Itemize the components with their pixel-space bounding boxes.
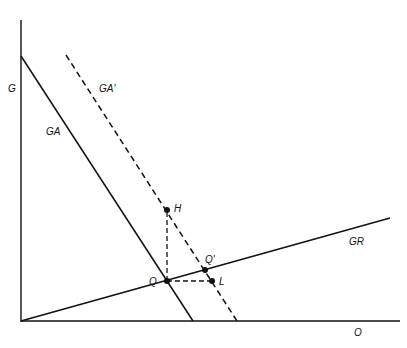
label-o: O [354, 327, 362, 338]
label-ga-prime: GA' [99, 83, 116, 94]
point-q [164, 278, 170, 284]
label-g: G [8, 83, 16, 94]
point-h [164, 207, 170, 213]
economic-diagram: G O GA GA' GR Q Q' H L [0, 0, 407, 348]
label-ga: GA [46, 126, 61, 137]
label-q-prime: Q' [205, 254, 216, 265]
label-l: L [219, 276, 225, 287]
label-q: Q [149, 276, 157, 287]
label-h: H [174, 203, 182, 214]
point-q-prime [202, 267, 208, 273]
point-l [209, 278, 215, 284]
label-gr: GR [349, 236, 364, 247]
